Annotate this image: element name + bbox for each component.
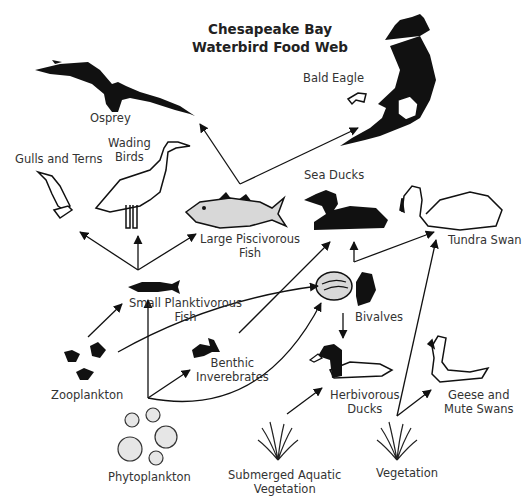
label-large-fish-line2: Fish [200, 246, 300, 260]
small-fish-icon [128, 280, 180, 294]
vegetation-grass-icon [377, 422, 417, 460]
title-line-2: Waterbird Food Web [170, 38, 370, 56]
osprey-icon [35, 60, 195, 116]
swan-icon [400, 186, 502, 230]
label-benthic-line2: Inverebrates [196, 370, 269, 384]
label-sav-line1: Submerged Aquatic [228, 468, 341, 482]
label-osprey: Osprey [90, 111, 131, 125]
label-small-fish: Small Planktivorous Fish [129, 296, 242, 324]
title-line-1: Chesapeake Bay [170, 20, 370, 38]
label-benthic: Benthic Inverebrates [196, 356, 269, 384]
label-small-fish-line2: Fish [129, 310, 242, 324]
gull-icon [38, 172, 72, 218]
label-herbivorous-ducks-line2: Ducks [330, 402, 400, 416]
label-sav-line2: Vegetation [228, 482, 341, 496]
label-herbivorous-ducks-line1: Herbivorous [330, 388, 400, 402]
label-wading-birds-line1: Wading [108, 136, 151, 150]
label-zooplankton: Zooplankton [51, 388, 123, 402]
label-phytoplankton: Phytoplankton [108, 470, 191, 484]
phytoplankton-icon [118, 408, 177, 465]
label-bivalves: Bivalves [355, 310, 403, 324]
label-small-fish-line1: Small Planktivorous [129, 296, 242, 310]
label-large-fish-line1: Large Piscivorous [200, 232, 300, 246]
large-fish-icon [186, 192, 286, 228]
label-sea-ducks: Sea Ducks [304, 168, 364, 182]
label-herbivorous-ducks: Herbivorous Ducks [330, 388, 400, 416]
zooplankton-icon [64, 342, 106, 380]
label-geese-swans-line2: Mute Swans [444, 402, 513, 416]
label-benthic-line1: Benthic [196, 356, 269, 370]
label-vegetation: Vegetation [376, 466, 438, 480]
label-large-fish: Large Piscivorous Fish [200, 232, 300, 260]
goose-icon [428, 336, 488, 382]
benthic-worm-icon [192, 338, 220, 358]
label-bald-eagle: Bald Eagle [303, 71, 364, 85]
diagram-title: Chesapeake Bay Waterbird Food Web [170, 20, 370, 56]
scaup-icon [310, 344, 392, 378]
label-gulls-terns: Gulls and Terns [15, 152, 102, 166]
label-sav: Submerged Aquatic Vegetation [228, 468, 341, 496]
sea-duck-icon [304, 190, 388, 230]
label-wading-birds-line2: Birds [108, 150, 151, 164]
label-wading-birds: Wading Birds [108, 136, 151, 164]
label-tundra-swan: Tundra Swan [448, 233, 522, 247]
label-geese-swans: Geese and Mute Swans [444, 388, 513, 416]
sav-grass-icon [258, 422, 298, 460]
label-geese-swans-line1: Geese and [444, 388, 513, 402]
bivalves-icon [316, 272, 376, 306]
